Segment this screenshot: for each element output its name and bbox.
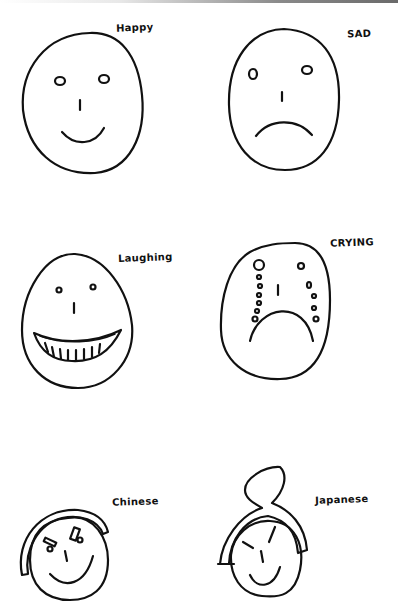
japanese-label: Japanese (315, 493, 369, 506)
sketch-sheet: Happy SAD Laughing CRYING Chinese Japane… (0, 0, 398, 614)
crying-face-drawing (221, 243, 330, 379)
crying-label: CRYING (330, 236, 374, 249)
laughing-face-drawing (22, 254, 132, 388)
happy-label: Happy (116, 21, 154, 33)
laughing-label: Laughing (118, 251, 173, 264)
sad-label: SAD (347, 28, 372, 40)
chinese-face-drawing (21, 510, 108, 600)
chinese-label: Chinese (112, 495, 159, 508)
japanese-face-drawing (218, 467, 307, 597)
happy-face-drawing (23, 33, 143, 173)
sad-face-drawing (229, 29, 339, 170)
